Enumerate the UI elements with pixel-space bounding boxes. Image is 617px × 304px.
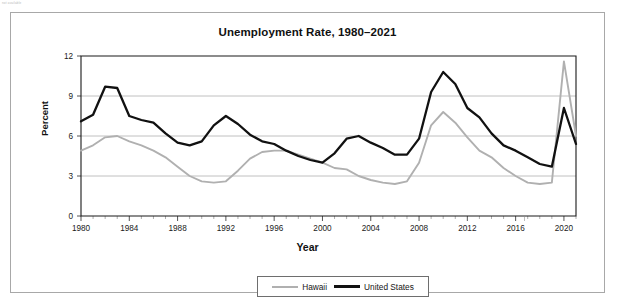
y-tick-label: 3 [68,172,73,181]
legend-line-swatch-united-states [334,285,360,288]
x-tick-label: 2012 [458,224,477,233]
legend-label-hawaii: Hawaii [302,282,327,292]
x-tick-label: 1988 [168,224,187,233]
legend-line-swatch-hawaii [272,286,298,288]
legend-label-united-states: United States [364,282,414,292]
x-tick-label: 2004 [362,224,381,233]
chart-legend: Hawaii United States [257,276,429,297]
y-tick-label: 0 [68,212,73,221]
corner-note: not available [2,1,21,5]
x-tick-label: 2008 [410,224,429,233]
x-tick-label: 2020 [555,224,574,233]
legend-item-united-states: United States [334,282,414,292]
y-tick-label: 12 [64,52,74,61]
figure-root: not available Unemployment Rate, 1980–20… [0,0,617,304]
x-tick-group: 1980198419881992199620002004200820122016… [72,216,576,233]
series-line-hawaii [81,61,576,184]
gridlines-group [81,96,576,176]
x-tick-label: 2016 [507,224,526,233]
plot-area: 036912 198019841988199219962000200420082… [11,13,606,294]
stray-artifact-mark [524,217,525,221]
y-tick-label: 6 [68,132,73,141]
x-tick-label: 1992 [217,224,236,233]
x-tick-label: 1996 [265,224,284,233]
series-group [81,61,576,184]
x-tick-label: 2000 [313,224,332,233]
chart-figure-frame: Unemployment Rate, 1980–2021 Percent Yea… [10,12,605,293]
y-tick-group: 036912 [64,52,81,221]
y-tick-label: 9 [68,92,73,101]
x-tick-label: 1984 [120,224,139,233]
legend-item-hawaii: Hawaii [272,282,327,292]
x-tick-label: 1980 [72,224,91,233]
